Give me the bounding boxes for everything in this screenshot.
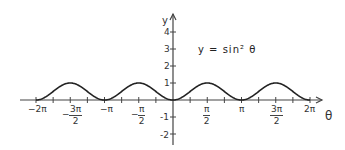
fraction-denominator: 2 [69,116,82,126]
x-axis-label: θ [325,110,332,122]
x-tick-label-pi: π [239,105,244,114]
fraction-numerator: 3π [69,105,82,116]
fraction-numerator: 3π [270,105,283,116]
fraction-denominator: 2 [270,116,283,126]
chart-title: y = sin² θ [198,44,256,55]
y-tick-label-2: 2 [164,62,170,71]
y-tick-label-3: 3 [164,45,170,54]
y-tick-label-4: 4 [164,28,170,37]
fraction-numerator: π [138,105,145,116]
x-tick-label-pi2: π 2 [203,105,210,126]
fraction-denominator: 2 [138,116,145,126]
x-tick-label-neg3pi2: 3π 2 [69,105,82,126]
y-tick-label-m2: -2 [160,131,169,140]
x-tick-label-negpi: −π [100,105,113,114]
x-tick-label-2pi: 2π [304,105,315,114]
y-tick-label-m1: -1 [160,113,169,122]
y-axis-label: y [162,16,168,26]
x-tick-label-neg2pi: −2π [28,105,47,114]
fraction-numerator: π [203,105,210,116]
x-tick-label-3pi2: 3π 2 [270,105,283,126]
x-tick-label-negpi2: π 2 [138,105,145,126]
chart-canvas [0,0,345,150]
fraction-denominator: 2 [203,116,210,126]
y-tick-label-1: 1 [164,79,170,88]
